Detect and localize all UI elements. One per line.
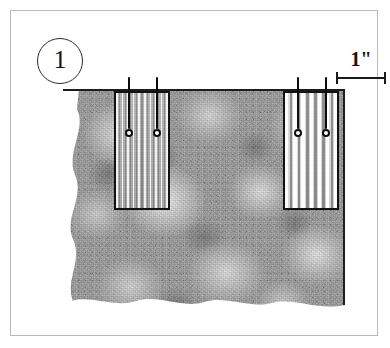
pin-left-b [156, 77, 159, 139]
dimension-line-icon [336, 77, 386, 79]
step-number-label: 1 [54, 47, 67, 73]
step-number-badge: 1 [37, 38, 83, 84]
pin-head-icon [294, 129, 302, 137]
figure-frame: 1 1" [10, 10, 378, 336]
left-swatch-stripes [116, 93, 168, 208]
scale-bar-label: 1" [333, 48, 389, 71]
pin-head-icon [153, 129, 161, 137]
scale-bar: 1" [333, 51, 389, 83]
pin-right-a [297, 77, 300, 139]
pin-shaft-icon [156, 77, 158, 129]
pin-shaft-icon [128, 77, 130, 129]
fabric-right-edge-rule [343, 89, 345, 305]
pin-shaft-icon [325, 77, 327, 129]
right-swatch-stripes [285, 93, 337, 208]
left-striped-swatch [114, 91, 170, 210]
dimension-cap-right-icon [384, 72, 386, 84]
pin-left-a [128, 77, 131, 139]
pin-head-icon [125, 129, 133, 137]
pin-shaft-icon [297, 77, 299, 129]
pin-right-b [325, 77, 328, 139]
dimension-cap-left-icon [336, 72, 338, 84]
pin-head-icon [322, 129, 330, 137]
right-striped-swatch [283, 91, 339, 210]
